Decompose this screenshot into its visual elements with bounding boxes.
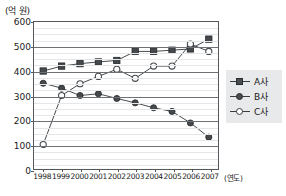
gridline-minor xyxy=(34,134,218,135)
gridline-minor xyxy=(34,159,218,160)
plot-area: 0100200300400500600 xyxy=(33,21,219,170)
y-axis-tick-label: 200 xyxy=(14,116,31,126)
y-axis-unit-label: (억 원) xyxy=(5,4,30,17)
gridline-minor xyxy=(34,41,218,42)
y-axis-tick-label: 300 xyxy=(14,92,31,102)
gridline-minor xyxy=(34,140,218,141)
gridline-minor xyxy=(34,53,218,54)
y-axis-tick-label: 500 xyxy=(14,42,31,52)
y-axis-tick-mark xyxy=(31,72,34,73)
x-axis-tick-label: 1999 xyxy=(52,172,70,181)
legend: A사 B사 C사 xyxy=(226,70,282,123)
legend-item-label: A사 xyxy=(254,75,268,88)
gridline-major xyxy=(34,72,218,73)
gridline-minor xyxy=(34,84,218,85)
legend-item-label: C사 xyxy=(254,105,268,118)
gridline-minor xyxy=(34,65,218,66)
x-axis-tick-label: 2001 xyxy=(89,172,107,181)
line-chart: (억 원) 0100200300400500600 19981999200020… xyxy=(0,0,286,196)
gridline-major xyxy=(34,97,218,98)
x-axis-tick-label: 2003 xyxy=(126,172,144,181)
gridline-major xyxy=(34,121,218,122)
gridline-minor xyxy=(34,28,218,29)
series-C사 xyxy=(40,41,212,148)
y-axis-tick-mark xyxy=(31,47,34,48)
y-axis-tick-mark xyxy=(31,97,34,98)
data-point xyxy=(114,57,120,63)
gridline-minor xyxy=(34,90,218,91)
y-axis-tick-label: 400 xyxy=(14,67,31,77)
x-axis-tick-label: 2000 xyxy=(71,172,89,181)
legend-marker-filled-circle-icon xyxy=(230,91,250,102)
gridline-minor xyxy=(34,59,218,60)
legend-item[interactable]: C사 xyxy=(230,104,279,119)
y-axis-tick-mark xyxy=(31,22,34,23)
gridline-minor xyxy=(34,128,218,129)
x-axis-tick-label: 2007 xyxy=(201,172,219,181)
y-axis-tick-label: 600 xyxy=(14,17,31,27)
series-A사 xyxy=(40,36,212,74)
legend-item[interactable]: B사 xyxy=(230,89,279,104)
y-axis-tick-mark xyxy=(31,121,34,122)
gridline-minor xyxy=(34,152,218,153)
legend-marker-open-circle-icon xyxy=(230,106,250,117)
legend-marker-filled-square-icon xyxy=(230,76,250,87)
legend-item-label: B사 xyxy=(254,90,268,103)
y-axis-tick-mark xyxy=(31,146,34,147)
gridline-minor xyxy=(34,103,218,104)
x-axis-tick-label: 1998 xyxy=(33,172,51,181)
gridline-minor xyxy=(34,78,218,79)
x-axis-tick-label: 2002 xyxy=(108,172,126,181)
gridline-minor xyxy=(34,115,218,116)
x-axis-title: (연도) xyxy=(224,172,243,183)
gridline-minor xyxy=(34,109,218,110)
gridline-minor xyxy=(34,34,218,35)
data-point xyxy=(77,92,83,98)
legend-item[interactable]: A사 xyxy=(230,74,279,89)
gridline-minor xyxy=(34,165,218,166)
x-axis-tick-label: 2005 xyxy=(164,172,182,181)
data-point xyxy=(59,92,65,98)
x-axis-tick-label: 2004 xyxy=(145,172,163,181)
x-axis-tick-label: 2006 xyxy=(182,172,200,181)
gridline-major xyxy=(34,47,218,48)
gridline-major xyxy=(34,146,218,147)
y-axis-tick-label: 100 xyxy=(14,141,31,151)
series-B사 xyxy=(40,80,212,140)
